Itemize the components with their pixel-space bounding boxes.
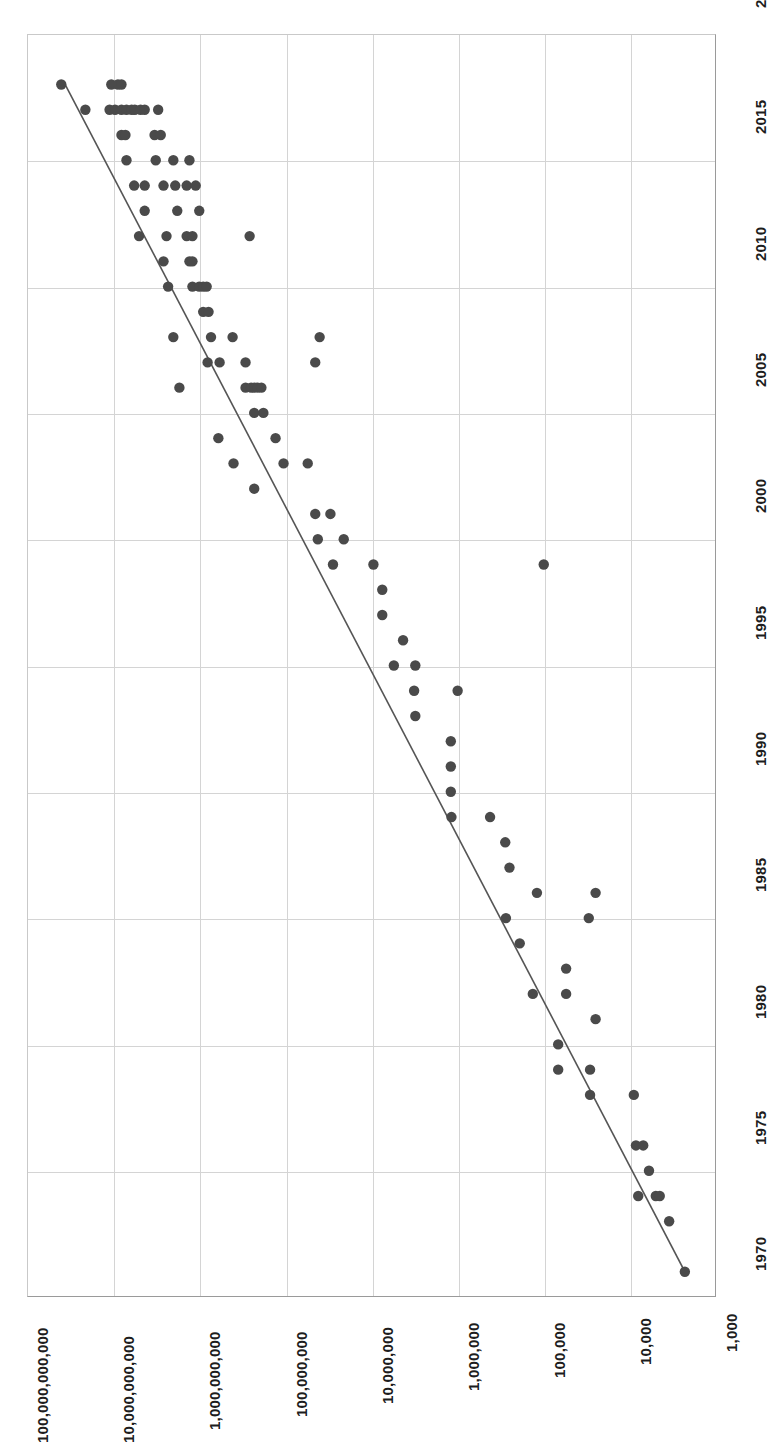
year-axis-tick-label: 2015 <box>752 100 769 134</box>
scatter-point <box>156 130 166 140</box>
scatter-point <box>446 736 456 746</box>
year-axis-tick-label: 2005 <box>752 353 769 387</box>
scatter-point <box>129 180 139 190</box>
scatter-point <box>303 458 313 468</box>
scatter-point <box>163 281 173 291</box>
scatter-point <box>310 509 320 519</box>
scatter-point <box>328 559 338 569</box>
scatter-point <box>270 433 280 443</box>
scatter-point <box>629 1090 639 1100</box>
year-axis-tick-label: 2020 <box>752 0 769 8</box>
scatter-point <box>585 1090 595 1100</box>
scatter-point <box>310 357 320 367</box>
scatter-point <box>446 761 456 771</box>
scatter-point <box>377 610 387 620</box>
scatter-point <box>168 155 178 165</box>
scatter-point <box>80 105 90 115</box>
scatter-point <box>561 963 571 973</box>
scatter-point <box>158 256 168 266</box>
scatter-point <box>249 483 259 493</box>
scatter-point <box>655 1191 665 1201</box>
value-axis-tick-label: 10,000,000 <box>379 1327 396 1404</box>
scatter-point <box>585 1064 595 1074</box>
scatter-point <box>121 155 131 165</box>
scatter-point <box>485 812 495 822</box>
scatter-point <box>644 1166 654 1176</box>
scatter-point <box>201 281 211 291</box>
year-axis-tick-label: 1975 <box>752 1111 769 1145</box>
value-axis-tick-label: 1,000,000 <box>465 1322 482 1391</box>
scatter-point <box>446 787 456 797</box>
scatter-point <box>339 534 349 544</box>
scatter-point <box>410 660 420 670</box>
scatter-point <box>206 332 216 342</box>
scatter-point <box>56 79 66 89</box>
scatter-point <box>240 357 250 367</box>
scatter-point <box>500 837 510 847</box>
scatter-point <box>174 382 184 392</box>
scatter-point <box>213 433 223 443</box>
scatter-point <box>116 79 126 89</box>
scatter-point <box>553 1064 563 1074</box>
scatter-point <box>187 231 197 241</box>
scatter-point <box>202 357 212 367</box>
scatter-point <box>214 357 224 367</box>
scatter-point <box>170 180 180 190</box>
scatter-point <box>398 635 408 645</box>
scatter-point <box>409 686 419 696</box>
scatter-point <box>227 332 237 342</box>
scatter-point <box>184 155 194 165</box>
scatter-point <box>158 180 168 190</box>
scatter-point <box>151 155 161 165</box>
scatter-point <box>228 458 238 468</box>
scatter-point <box>446 812 456 822</box>
scatter-point <box>590 888 600 898</box>
value-axis-tick-label: 10,000 <box>637 1318 654 1365</box>
scatter-point <box>134 231 144 241</box>
value-axis-tick-label: 100,000,000 <box>293 1331 310 1417</box>
scatter-point <box>553 1039 563 1049</box>
scatter-point <box>377 585 387 595</box>
scatter-point <box>410 711 420 721</box>
scatter-point <box>504 862 514 872</box>
scatter-point <box>528 989 538 999</box>
scatter-point <box>153 105 163 115</box>
scatter-point <box>244 231 254 241</box>
scatter-point <box>590 1014 600 1024</box>
scatter-point <box>680 1267 690 1277</box>
scatter-point <box>452 686 462 696</box>
scatter-point <box>633 1191 643 1201</box>
scatter-point <box>258 408 268 418</box>
scatter-point <box>314 332 324 342</box>
scatter-point <box>515 938 525 948</box>
scatter-point <box>161 231 171 241</box>
value-axis-tick-label: 10,000,000,000 <box>120 1336 137 1443</box>
scatter-point <box>389 660 399 670</box>
scatter-points-group <box>56 79 690 1277</box>
scatter-point <box>256 382 266 392</box>
year-axis-tick-label: 2000 <box>752 479 769 513</box>
scatter-point <box>532 888 542 898</box>
scatter-point <box>190 180 200 190</box>
scatter-point <box>181 180 191 190</box>
scatter-point <box>194 206 204 216</box>
year-axis-tick-label: 1970 <box>752 1237 769 1271</box>
scatter-point <box>584 913 594 923</box>
scatter-point <box>638 1140 648 1150</box>
value-axis-tick-label: 1,000,000,000 <box>206 1331 223 1430</box>
year-axis-tick-label: 1995 <box>752 606 769 640</box>
scatter-point <box>368 559 378 569</box>
scatter-point <box>172 206 182 216</box>
year-axis-tick-label: 1990 <box>752 732 769 766</box>
scatter-point <box>561 989 571 999</box>
scatter-point <box>664 1216 674 1226</box>
scatter-point <box>139 180 149 190</box>
scatter-point <box>168 332 178 342</box>
scatter-point <box>139 206 149 216</box>
year-axis-tick-label: 2010 <box>752 227 769 261</box>
scatter-point <box>501 913 511 923</box>
plot-canvas <box>27 34 716 1297</box>
scatter-point <box>313 534 323 544</box>
value-axis-tick-label: 100,000 <box>551 1322 568 1378</box>
year-axis-tick-label: 1980 <box>752 985 769 1019</box>
